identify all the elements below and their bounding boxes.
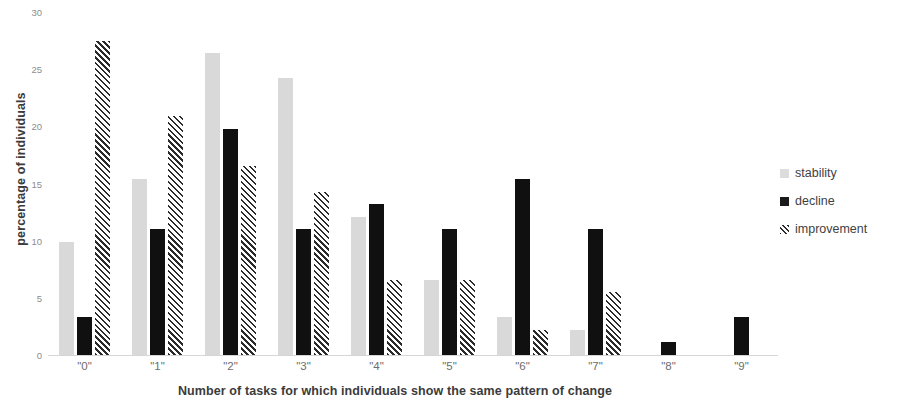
bar-group [559,12,632,355]
x-axis-tick-label: "5" [413,360,486,372]
bar-decline[interactable] [369,204,384,355]
bar-stability[interactable] [424,280,439,355]
chart-legend: stabilitydeclineimprovement [780,166,900,250]
bar-decline[interactable] [77,317,92,355]
y-axis-tick-label: 20 [2,121,42,132]
legend-label: stability [795,166,837,180]
y-axis-tick-label: 0 [2,350,42,361]
bar-improvement[interactable] [460,280,475,355]
y-axis-tick-label: 5 [2,292,42,303]
bar-stability[interactable] [351,217,366,355]
bar-group [121,12,194,355]
bar-group [48,12,121,355]
legend-label: improvement [795,222,867,236]
legend-swatch-icon [780,225,789,234]
bar-stability[interactable] [59,242,74,355]
bar-decline[interactable] [296,229,311,355]
y-axis-tick-label: 10 [2,235,42,246]
legend-swatch-icon [780,197,789,206]
bar-group [267,12,340,355]
x-axis-tick-label: "4" [340,360,413,372]
x-axis-tick-label: "3" [267,360,340,372]
bar-decline[interactable] [223,129,238,355]
x-axis-tick-labels: "0""1""2""3""4""5""6""7""8""9" [48,360,778,372]
bar-group [705,12,778,355]
bar-decline[interactable] [661,342,676,355]
x-axis-tick-label: "7" [559,360,632,372]
bar-improvement[interactable] [533,330,548,355]
legend-item-stability[interactable]: stability [780,166,900,180]
y-axis-tick-label: 30 [2,7,42,18]
x-axis-line [48,355,778,356]
legend-swatch-icon [780,169,789,178]
legend-item-decline[interactable]: decline [780,194,900,208]
bar-decline[interactable] [734,317,749,355]
bar-improvement[interactable] [606,292,621,355]
bar-group [486,12,559,355]
bar-group [340,12,413,355]
bar-stability[interactable] [570,330,585,355]
bar-improvement[interactable] [95,41,110,355]
bar-improvement[interactable] [168,116,183,355]
x-axis-tick-label: "9" [705,360,778,372]
bar-decline[interactable] [588,229,603,355]
y-axis-tick-label: 25 [2,64,42,75]
bar-group [632,12,705,355]
legend-item-improvement[interactable]: improvement [780,222,900,236]
bar-groups [48,12,778,355]
bar-stability[interactable] [497,317,512,355]
x-axis-tick-label: "2" [194,360,267,372]
bar-stability[interactable] [132,179,147,355]
y-axis-tick-label: 15 [2,178,42,189]
legend-label: decline [795,194,835,208]
x-axis-title: Number of tasks for which individuals sh… [0,384,790,398]
bar-chart: percentage of individuals 051015202530 "… [0,0,901,409]
x-axis-tick-label: "8" [632,360,705,372]
x-axis-tick-label: "6" [486,360,559,372]
y-axis-ticks: 051015202530 [0,12,42,355]
bar-decline[interactable] [150,229,165,355]
bar-stability[interactable] [278,78,293,355]
bar-group [413,12,486,355]
bar-group [194,12,267,355]
bar-improvement[interactable] [241,166,256,355]
x-axis-tick-label: "1" [121,360,194,372]
bar-decline[interactable] [515,179,530,355]
bar-improvement[interactable] [387,280,402,355]
x-axis-tick-label: "0" [48,360,121,372]
bar-stability[interactable] [205,53,220,355]
bar-improvement[interactable] [314,192,329,355]
bar-decline[interactable] [442,229,457,355]
